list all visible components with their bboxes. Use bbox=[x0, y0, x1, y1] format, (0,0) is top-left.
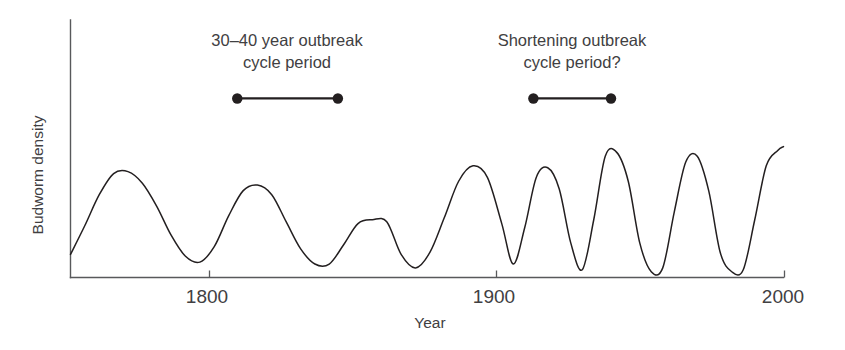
x-axis-title: Year bbox=[414, 314, 445, 331]
right-cycle-annotation bbox=[528, 93, 616, 103]
left-cycle-annotation-end-dot-icon bbox=[333, 93, 343, 103]
right-annotation-line1: Shortening outbreak bbox=[498, 31, 647, 49]
right-cycle-annotation-start-dot-icon bbox=[528, 93, 538, 103]
chart-canvas: 1800 1900 2000 Year Budworm density 30–4… bbox=[0, 0, 845, 350]
budworm-density-curve bbox=[71, 147, 784, 276]
y-axis-title: Budworm density bbox=[29, 115, 46, 234]
left-annotation-line1: 30–40 year outbreak bbox=[211, 31, 363, 49]
left-cycle-annotation bbox=[232, 93, 343, 103]
budworm-density-figure: 1800 1900 2000 Year Budworm density 30–4… bbox=[0, 0, 845, 350]
left-annotation-line2: cycle period bbox=[243, 53, 331, 71]
x-tick-label-1800: 1800 bbox=[186, 286, 228, 307]
left-cycle-annotation-start-dot-icon bbox=[232, 93, 242, 103]
x-tick-label-2000: 2000 bbox=[762, 286, 804, 307]
x-axis-ticks bbox=[210, 271, 785, 278]
right-cycle-annotation-end-dot-icon bbox=[606, 93, 616, 103]
x-tick-label-1900: 1900 bbox=[473, 286, 515, 307]
annotation-bars-group bbox=[232, 93, 616, 103]
right-annotation-line2: cycle period? bbox=[523, 53, 620, 71]
